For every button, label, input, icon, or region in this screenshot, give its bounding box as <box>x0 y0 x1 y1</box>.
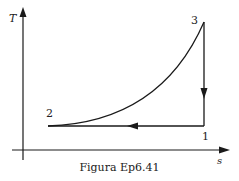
axes <box>12 7 230 160</box>
process-2-3-curve <box>48 22 204 126</box>
point-2-label: 2 <box>46 107 53 120</box>
x-axis-arrow-icon <box>219 147 230 154</box>
figure-caption: Figura Ep6.41 <box>0 161 239 174</box>
y-axis-label: T <box>9 12 18 25</box>
point-1-label: 1 <box>202 130 209 143</box>
ts-diagram: T s 3 2 1 <box>0 0 239 181</box>
y-axis-arrow-icon <box>20 7 27 17</box>
point-3-label: 3 <box>191 14 198 27</box>
left-arrow-icon <box>127 123 138 130</box>
down-arrow-icon <box>201 88 208 99</box>
